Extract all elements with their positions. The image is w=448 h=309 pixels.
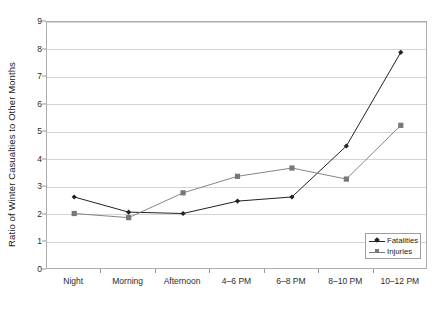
x-tick-label: Morning (112, 277, 143, 286)
x-tick-mark (209, 269, 210, 273)
chart-legend: Fatalities Injuries (365, 233, 421, 259)
legend-label-injuries: Injuries (387, 248, 412, 256)
legend-item-injuries: Injuries (369, 247, 417, 257)
y-tick-label: 2 (20, 210, 42, 219)
x-tick-mark (100, 269, 101, 273)
data-point (126, 215, 131, 220)
x-tick-mark (264, 269, 265, 273)
y-tick-label: 1 (20, 237, 42, 246)
data-point (180, 211, 185, 216)
data-point (344, 176, 349, 181)
x-tick-mark (373, 269, 374, 273)
data-point (235, 174, 240, 179)
y-axis-ticks: 0123456789 (18, 0, 42, 309)
legend-marker-square (375, 249, 379, 253)
legend-swatch-fatalities (369, 237, 385, 246)
legend-marker-diamond (374, 237, 380, 243)
series-fatalities (72, 50, 404, 216)
y-tick-label: 8 (20, 44, 42, 53)
x-tick-mark (155, 269, 156, 273)
plot-area (46, 21, 427, 269)
legend-item-fatalities: Fatalities (369, 236, 417, 246)
data-point (289, 165, 294, 170)
data-point (235, 199, 240, 204)
series-injuries (72, 123, 404, 221)
y-tick-label: 9 (20, 17, 42, 26)
x-tick-label: 10–12 PM (380, 277, 419, 286)
y-tick-label: 3 (20, 182, 42, 191)
y-tick-label: 0 (20, 265, 42, 274)
data-point (72, 211, 77, 216)
data-point (398, 50, 403, 55)
y-tick-label: 6 (20, 99, 42, 108)
x-tick-label: 6–8 PM (276, 277, 305, 286)
x-tick-label: 4–6 PM (222, 277, 251, 286)
x-tick-label: Night (63, 277, 83, 286)
data-point (398, 123, 403, 128)
data-point (180, 190, 185, 195)
x-tick-mark (318, 269, 319, 273)
data-point (72, 194, 77, 199)
y-tick-label: 4 (20, 155, 42, 164)
series-line (74, 125, 401, 217)
chart-figure: Ratio of Winter Casualties to Other Mont… (0, 0, 448, 309)
legend-swatch-injuries (369, 248, 385, 257)
data-point (126, 210, 131, 215)
y-tick-label: 5 (20, 127, 42, 136)
x-tick-label: 8–10 PM (328, 277, 362, 286)
legend-label-fatalities: Fatalities (387, 237, 418, 245)
series-line (74, 52, 401, 213)
y-tick-label: 7 (20, 72, 42, 81)
x-tick-label: Afternoon (164, 277, 201, 286)
